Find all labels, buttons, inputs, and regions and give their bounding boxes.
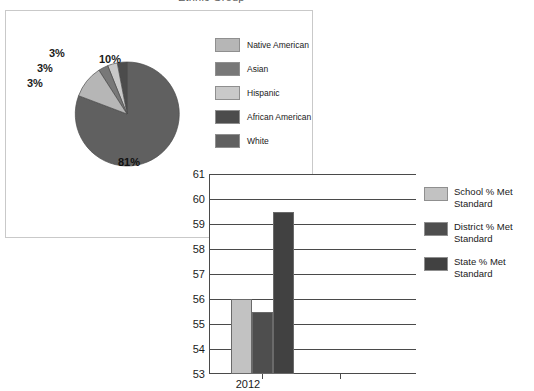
page-title-cutoff: Ethnic Group — [178, 0, 245, 3]
legend-label-african-american: African American — [247, 113, 311, 122]
pie-chart-legend: Native American Asian Hispanic African A… — [215, 33, 311, 153]
screenshot-root: Ethnic Group 10% 3% 3% 3% 81% Native Ame… — [0, 0, 534, 391]
bar-legend-label-state: State % Met Standard — [454, 256, 532, 279]
y-tick-60: 60 — [185, 194, 205, 205]
y-tick-59: 59 — [185, 219, 205, 230]
bar-district[interactable] — [252, 312, 273, 374]
legend-item-hispanic: Hispanic — [215, 81, 311, 105]
bar-school[interactable] — [231, 299, 252, 374]
legend-label-native-american: Native American — [247, 41, 309, 50]
legend-swatch-asian — [215, 62, 240, 76]
bar-legend-item-state: State % Met Standard — [424, 256, 534, 279]
bar-state[interactable] — [273, 212, 294, 374]
y-tick-61: 61 — [185, 169, 205, 180]
y-tick-55: 55 — [185, 319, 205, 330]
legend-label-hispanic: Hispanic — [247, 89, 280, 98]
legend-item-asian: Asian — [215, 57, 311, 81]
legend-item-white: White — [215, 129, 311, 153]
legend-swatch-hispanic — [215, 86, 240, 100]
bar-legend-swatch-state — [424, 257, 448, 271]
y-tick-57: 57 — [185, 269, 205, 280]
pie-label-hispanic: 3% — [37, 62, 53, 74]
pie-label-asian: 3% — [27, 77, 43, 89]
bar-legend-label-district: District % Met Standard — [454, 221, 532, 244]
pie-label-white: 81% — [118, 156, 140, 168]
legend-swatch-white — [215, 134, 240, 148]
pie-chart-graphic — [14, 19, 209, 204]
bar-legend-item-district: District % Met Standard — [424, 221, 534, 244]
x-axis-label-2012: 2012 — [193, 378, 303, 390]
bar-legend-swatch-school — [424, 187, 448, 201]
y-tick-54: 54 — [185, 344, 205, 355]
x-tick-right — [340, 374, 341, 379]
legend-swatch-native-american — [215, 38, 240, 52]
bar-legend-item-school: School % Met Standard — [424, 186, 534, 209]
legend-swatch-african-american — [215, 110, 240, 124]
y-tick-56: 56 — [185, 294, 205, 305]
legend-label-asian: Asian — [247, 65, 268, 74]
pie-label-african-american: 3% — [49, 47, 65, 59]
bar-legend-label-school: School % Met Standard — [454, 186, 532, 209]
legend-item-african-american: African American — [215, 105, 311, 129]
y-tick-58: 58 — [185, 244, 205, 255]
pie-label-native-american: 10% — [99, 53, 121, 65]
legend-label-white: White — [247, 137, 269, 146]
bar-chart-legend: School % Met Standard District % Met Sta… — [424, 186, 534, 291]
bar-legend-swatch-district — [424, 222, 448, 236]
legend-item-native-american: Native American — [215, 33, 311, 57]
